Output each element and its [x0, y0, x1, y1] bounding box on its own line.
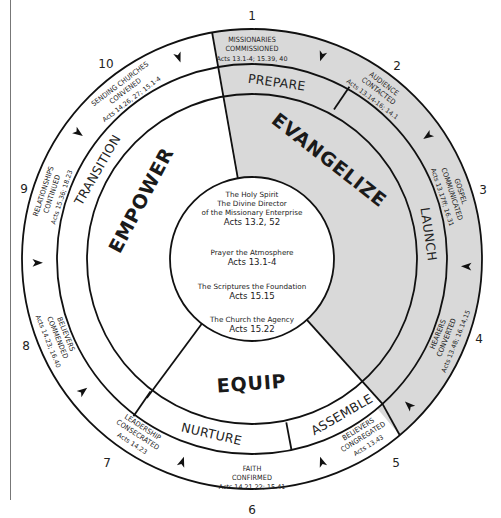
svg-text:EQUIP: EQUIP — [216, 370, 287, 397]
step-number-10: 10 — [98, 57, 113, 71]
svg-text:EMPOWER: EMPOWER — [104, 143, 178, 256]
step-number-5: 5 — [392, 456, 400, 470]
arrow-icon — [177, 455, 188, 467]
phase-empower: EMPOWER — [104, 143, 178, 256]
step-number-1: 1 — [248, 9, 256, 23]
divider-equip-empower — [147, 324, 202, 398]
pauline-cycle-diagram: 1 2 3 4 5 6 7 8 9 10 MISSIONARIES COMMIS… — [0, 0, 501, 518]
center-line-holy-spirit: The Holy Spirit — [225, 190, 279, 199]
step-number-6: 6 — [248, 503, 256, 517]
arrow-icon — [316, 455, 327, 467]
arrow-icon — [32, 259, 43, 267]
phase-equip: EQUIP — [216, 370, 287, 397]
center-ref-2: Acts 13.1-4 — [228, 257, 277, 267]
center-line-prayer: Prayer the Atmosphere — [210, 248, 294, 257]
center-ref-4: Acts 15.22 — [229, 324, 275, 334]
step-6-faith-confirmed: FAITH CONFIRMED Acts 14.21,22; 15.41 — [219, 464, 286, 491]
arrow-icon — [173, 51, 184, 63]
center-line-divine-director: The Divine Director — [216, 199, 287, 208]
center-line-scriptures: The Scriptures the Foundation — [197, 282, 307, 291]
step-number-8: 8 — [22, 339, 30, 353]
center-ref-3: Acts 15.15 — [229, 291, 275, 301]
step-number-4: 4 — [475, 332, 483, 346]
step-number-9: 9 — [20, 182, 28, 196]
svg-text:CONFIRMED: CONFIRMED — [232, 473, 272, 482]
step-number-2: 2 — [393, 59, 401, 73]
step-7-leadership-consecrated: LEADERSHIP CONSECRATED Acts 14.23 — [109, 410, 166, 460]
center-line-missionary-enterprise: of the Missionary Enterprise — [202, 208, 303, 217]
step-number-7: 7 — [103, 456, 111, 470]
arrow-icon — [72, 127, 85, 139]
center-line-church: The Church the Agency — [209, 315, 295, 324]
center-ref-1: Acts 13.2, 52 — [224, 217, 281, 227]
divider-nurture-assemble — [286, 422, 291, 450]
svg-text:Acts 13.1-4; 15.39, 40: Acts 13.1-4; 15.39, 40 — [217, 55, 288, 63]
svg-text:COMMISSIONED: COMMISSIONED — [226, 44, 279, 53]
svg-text:Acts 14.21,22; 15.41: Acts 14.21,22; 15.41 — [219, 483, 286, 491]
divider-nurture-transition — [134, 392, 151, 417]
arrow-icon — [77, 385, 90, 398]
svg-text:MISSIONARIES: MISSIONARIES — [228, 35, 276, 44]
svg-text:FAITH: FAITH — [243, 464, 262, 473]
step-number-3: 3 — [479, 183, 487, 197]
